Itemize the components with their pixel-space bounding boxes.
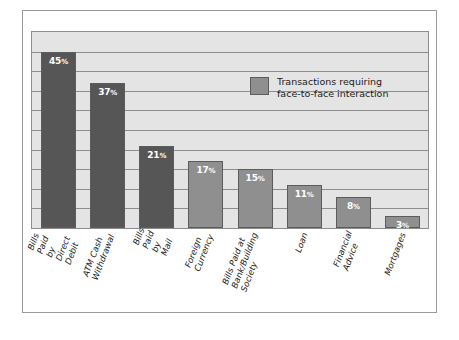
category-label-slot: Bills Paid at Bank/Building Society — [238, 231, 273, 311]
bar-slot: 17% — [188, 32, 223, 228]
bar-value-label: 21% — [147, 151, 166, 227]
legend-label-face-to-face: Transactions requiring face-to-face inte… — [277, 76, 388, 99]
bar[interactable]: 17% — [188, 161, 223, 228]
bars-group: 45%37%21%17%15%11%8%3% — [32, 32, 428, 228]
category-label-slot: Bills Paid by Direct Debit — [40, 231, 75, 311]
bar[interactable]: 8% — [336, 197, 371, 228]
bar-slot: 3% — [385, 32, 420, 228]
bar-value-label: 37% — [98, 88, 117, 227]
plot-area: 45%37%21%17%15%11%8%3% Transactions requ… — [31, 31, 429, 229]
category-label: Foreign Currency — [183, 229, 216, 272]
category-label-slot: Bills Paid by Mail — [139, 231, 174, 311]
bar[interactable]: 11% — [287, 185, 322, 228]
bar-slot: 15% — [238, 32, 273, 228]
bar[interactable]: 21% — [139, 146, 174, 228]
bar-value-label: 11% — [295, 190, 314, 227]
category-label: Bills Paid by Direct Debit — [25, 224, 81, 266]
category-label: ATM Cash Withdrawal — [80, 229, 116, 281]
bar-slot: 8% — [336, 32, 371, 228]
bar[interactable]: 3% — [385, 216, 420, 228]
bar[interactable]: 15% — [238, 169, 273, 228]
category-label-slot: Loan — [287, 231, 322, 311]
category-label: Loan — [293, 231, 310, 254]
bar-value-label: 3% — [396, 221, 409, 227]
bar[interactable]: 37% — [90, 83, 125, 228]
bar-value-label: 45% — [49, 57, 68, 227]
bar-value-label: 8% — [347, 202, 360, 227]
legend-swatch-face-to-face — [250, 77, 269, 95]
bar-slot: 11% — [287, 32, 322, 228]
bar-slot: 37% — [90, 32, 125, 228]
category-label: Financial Advice — [331, 229, 363, 271]
category-label: Mortgages — [383, 231, 408, 277]
category-label-slot: Mortgages — [386, 231, 421, 311]
category-label-slot: Foreign Currency — [188, 231, 223, 311]
bar[interactable]: 45% — [41, 52, 76, 228]
category-label-slot: ATM Cash Withdrawal — [89, 231, 124, 311]
bar-value-label: 15% — [246, 174, 265, 227]
category-label: Bills Paid by Mail — [131, 226, 175, 257]
bar-slot: 21% — [139, 32, 174, 228]
bar-value-label: 17% — [196, 166, 215, 227]
category-label: Bills Paid at Bank/Building Society — [220, 228, 269, 294]
category-label-slot: Financial Advice — [337, 231, 372, 311]
chart-legend: Transactions requiring face-to-face inte… — [250, 76, 388, 99]
chart-figure-frame: 45%37%21%17%15%11%8%3% Transactions requ… — [22, 10, 437, 313]
category-labels-group: Bills Paid by Direct DebitATM Cash Withd… — [31, 231, 429, 311]
bar-slot: 45% — [41, 32, 76, 228]
